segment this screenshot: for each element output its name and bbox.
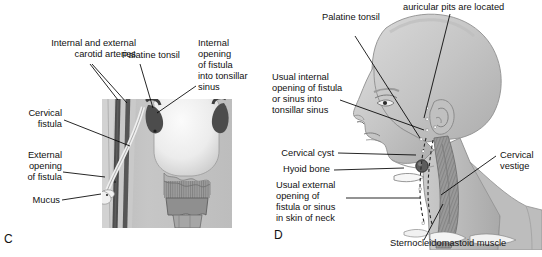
label-external-opening-of-fistula: External opening of fistula xyxy=(0,150,62,183)
label-auricular-pits-are-located: auricular pits are located xyxy=(403,2,542,13)
label-cervical-fistula: Cervical fistula xyxy=(0,108,62,130)
label-palatine-tonsil-d: Palatine tonsil xyxy=(322,12,402,23)
label-hyoid-bone: Hyoid bone xyxy=(262,164,330,175)
panel-letter-c: C xyxy=(4,232,13,246)
label-internal-opening-of-fistula-into-tonsillar-sinus: Internal opening of fistula into tonsill… xyxy=(198,38,270,93)
panel-letter-d: D xyxy=(274,228,283,242)
label-cervical-cyst: Cervical cyst xyxy=(262,148,334,159)
label-cervical-vestige: Cervical vestige xyxy=(500,150,542,172)
label-usual-external-opening-of-fistula-or-sinus-in-skin-of-neck: Usual external opening of fistula or sin… xyxy=(276,180,354,224)
figure-branchial-fistula: Internal and external carotid arteries P… xyxy=(0,0,542,257)
label-internal-external-carotid-arteries: Internal and external carotid arteries xyxy=(8,38,136,60)
label-palatine-tonsil-c: Palatine tonsil xyxy=(122,50,194,61)
label-sternocleidomastoid-muscle: Sternocleidomastoid muscle xyxy=(390,238,542,249)
label-usual-internal-opening-of-fistula-or-sinus-into-tonsillar-sinus: Usual internal opening of fistula or sin… xyxy=(272,72,362,116)
label-mucus: Mucus xyxy=(0,195,60,206)
